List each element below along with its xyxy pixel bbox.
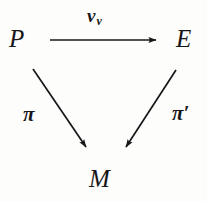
edge-label-nu: νν: [87, 6, 102, 27]
commutative-diagram: P E M νν π π′: [0, 0, 207, 202]
edge-label-pi: π: [23, 104, 34, 125]
edge-label-pi-prime-mark: ′: [183, 101, 189, 125]
edge-label-pi-prime: π′: [172, 103, 189, 124]
node-p: P: [9, 26, 25, 51]
node-m: M: [89, 166, 110, 191]
arrow-e-to-m: [126, 70, 176, 147]
edge-label-pi-prime-base: π: [172, 101, 183, 125]
edge-label-nu-subscript: ν: [95, 14, 101, 28]
arrow-p-to-m: [33, 69, 86, 147]
node-e: E: [176, 26, 192, 51]
